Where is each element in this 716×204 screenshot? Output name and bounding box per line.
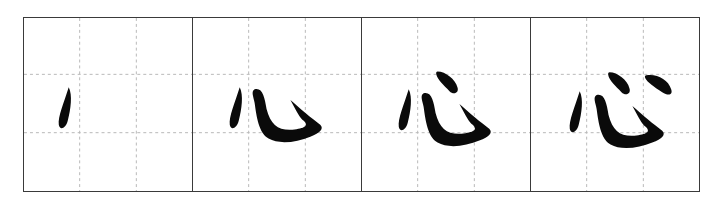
practice-grid	[362, 18, 530, 191]
stroke-1-dot-left	[59, 87, 71, 128]
stroke-1-dot-left	[230, 87, 242, 128]
practice-grid	[193, 18, 361, 191]
practice-grid	[24, 18, 192, 191]
stroke-order-grid	[23, 17, 700, 192]
step-cell-1	[24, 18, 193, 191]
stroke-1-dot-left	[570, 91, 582, 132]
stroke-3-dot-middle	[436, 71, 458, 93]
step-cell-3	[362, 18, 531, 191]
stroke-2-lying-hook	[595, 95, 664, 148]
practice-grid	[531, 18, 699, 191]
stroke-3-dot-middle	[608, 72, 630, 94]
stroke-2-lying-hook	[422, 93, 491, 146]
stroke-1-dot-left	[399, 89, 411, 130]
stroke-4-dot-right	[645, 75, 672, 95]
stroke-2-lying-hook	[253, 89, 322, 142]
step-cell-2	[193, 18, 362, 191]
step-cell-4	[531, 18, 699, 191]
